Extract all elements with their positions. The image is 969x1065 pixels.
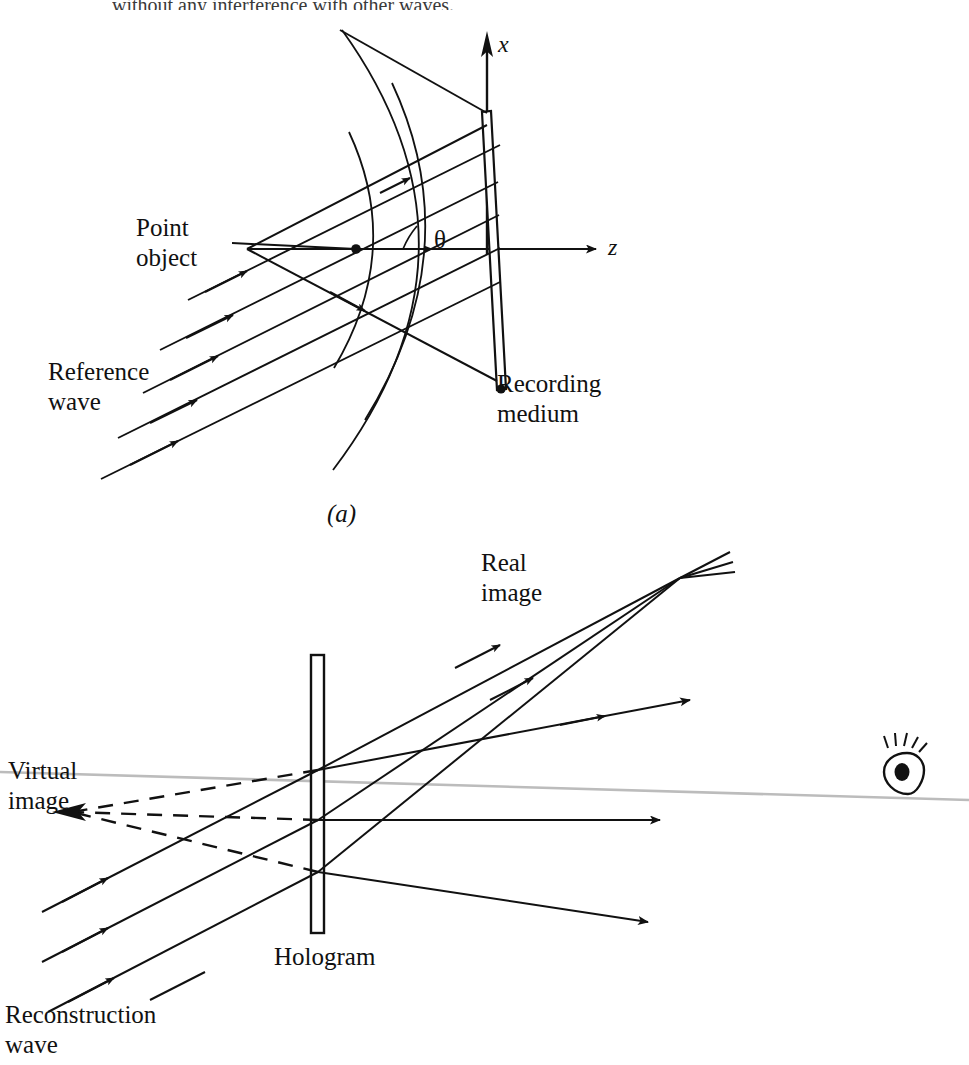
reconstruction-wave-label-line1: Reconstruction bbox=[5, 1000, 156, 1030]
reference-wave-label-line2: wave bbox=[48, 387, 101, 417]
z-axis-label: z bbox=[608, 234, 617, 261]
real-image-diverging-rays bbox=[680, 552, 735, 578]
recording-medium-label-line1: Recording bbox=[497, 369, 601, 399]
eye-icon bbox=[884, 733, 927, 794]
transmitted-ray-arrowheads bbox=[560, 716, 605, 725]
virtual-image-dashed-rays bbox=[72, 770, 318, 872]
point-object-label-line1: Point bbox=[136, 213, 189, 243]
figure-page: without any interference with other wave… bbox=[0, 0, 969, 1065]
x-axis-label: x bbox=[498, 31, 509, 58]
holography-figure-svg bbox=[0, 0, 969, 1065]
reference-wave-label-line1: Reference bbox=[48, 357, 149, 387]
recording-medium-plate bbox=[482, 111, 506, 394]
upper-boundary-ray bbox=[340, 30, 487, 113]
object-rays bbox=[232, 125, 497, 381]
real-image-label-line2: image bbox=[481, 578, 542, 608]
hologram-plate bbox=[311, 655, 324, 933]
hologram-label: Hologram bbox=[274, 942, 375, 972]
point-object-label-line2: object bbox=[136, 243, 197, 273]
virtual-image-label-line1: Virtual bbox=[8, 756, 77, 786]
theta-angle-arc bbox=[403, 226, 417, 249]
panel-a-caption: (a) bbox=[327, 500, 356, 528]
recording-medium-label-line2: medium bbox=[497, 399, 579, 429]
virtual-image-label-line2: image bbox=[8, 786, 69, 816]
optical-axis-line bbox=[0, 772, 969, 800]
reconstruction-wave-label-line2: wave bbox=[5, 1030, 58, 1060]
real-image-converging-rays bbox=[318, 578, 680, 872]
panel-b-reconstruction bbox=[0, 552, 969, 1012]
theta-symbol-label: θ bbox=[434, 226, 446, 254]
virtual-image-transmitted-rays bbox=[318, 700, 690, 922]
real-image-label-line1: Real bbox=[481, 548, 527, 578]
reference-wave-rays bbox=[101, 145, 500, 479]
